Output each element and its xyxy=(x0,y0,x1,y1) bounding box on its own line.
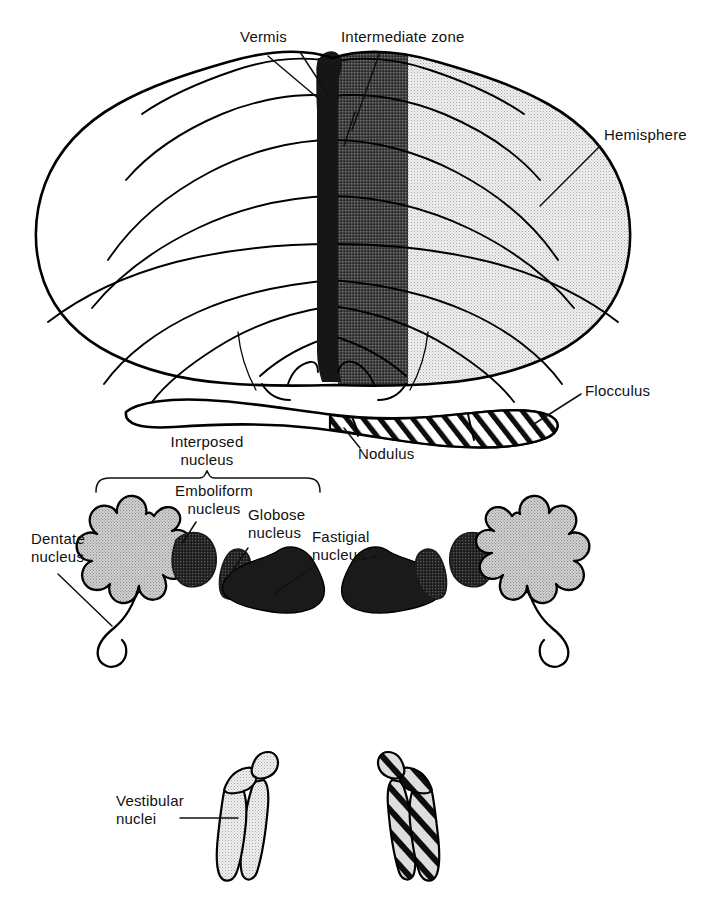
label-dentate-nucleus-line2: nucleus xyxy=(31,548,84,565)
flocculus-right-hatch xyxy=(330,410,558,447)
label-nodulus: Nodulus xyxy=(358,445,414,462)
intermediate-zone-band xyxy=(338,40,408,400)
figure-canvas: Vermis Intermediate zone Hemisphere Floc… xyxy=(0,0,701,909)
label-vestibular-nuclei-line2: nuclei xyxy=(116,810,156,827)
dentate-right-shape xyxy=(476,496,589,603)
label-interposed-nucleus-line2: nucleus xyxy=(180,451,233,468)
label-globose-nucleus-line2: nucleus xyxy=(248,524,301,541)
label-hemisphere: Hemisphere xyxy=(604,126,687,143)
label-interposed-nucleus-line1: Interposed xyxy=(171,433,244,450)
label-emboliform-nucleus-line1: Emboliform xyxy=(175,482,253,499)
panel-cerebellum: Vermis Intermediate zone Hemisphere Floc… xyxy=(36,28,687,462)
label-emboliform-nucleus-line2: nucleus xyxy=(187,500,240,517)
label-flocculus: Flocculus xyxy=(585,382,650,399)
panel-deep-nuclei: Interposed nucleus Emboliform nucleus Gl… xyxy=(31,433,589,667)
label-fastigial-nucleus-line1: Fastigial xyxy=(312,528,370,545)
label-dentate-nucleus-line1: Dentate xyxy=(31,530,85,547)
label-intermediate-zone: Intermediate zone xyxy=(341,28,464,45)
vestibular-right-cap xyxy=(378,752,404,779)
panel-vestibular: Vestibular nuclei xyxy=(116,752,439,881)
leader-flocculus xyxy=(534,394,581,424)
cerebellum-figure: Vermis Intermediate zone Hemisphere Floc… xyxy=(0,0,701,909)
vestibular-left-cap xyxy=(252,752,278,779)
label-vermis: Vermis xyxy=(240,28,287,45)
label-globose-nucleus-line1: Globose xyxy=(248,506,305,523)
emboliform-left-shape xyxy=(172,533,216,587)
hemisphere-left-shape xyxy=(36,52,333,386)
label-vestibular-nuclei-line1: Vestibular xyxy=(116,792,184,809)
